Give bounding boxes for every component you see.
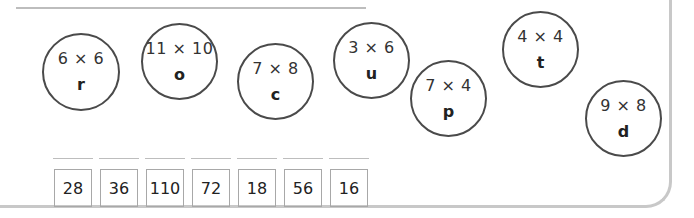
problem-circle-o: 11 × 10 o — [141, 23, 218, 100]
answer-slot: 36 — [99, 158, 139, 207]
answer-blank[interactable] — [53, 158, 93, 159]
answer-box: 28 — [54, 169, 92, 207]
problem-expression: 9 × 8 — [600, 96, 646, 116]
answer-box: 18 — [238, 169, 276, 207]
problem-circle-r: 6 × 6 r — [42, 33, 120, 111]
answer-slot: 72 — [191, 158, 231, 207]
answer-blank[interactable] — [99, 158, 139, 159]
problem-expression: 7 × 8 — [252, 59, 298, 79]
problem-letter: t — [537, 53, 545, 73]
problem-circle-c: 7 × 8 c — [237, 43, 314, 120]
problem-circle-p: 7 × 4 p — [410, 60, 487, 137]
problem-expression: 6 × 6 — [58, 49, 104, 69]
answer-blank[interactable] — [145, 158, 185, 159]
answer-box: 16 — [330, 169, 368, 207]
top-divider — [16, 7, 366, 9]
answer-blank[interactable] — [237, 158, 277, 159]
answer-box: 110 — [146, 169, 184, 207]
answer-box: 36 — [100, 169, 138, 207]
answer-blank[interactable] — [329, 158, 369, 159]
answer-slot: 110 — [145, 158, 185, 207]
problem-expression: 3 × 6 — [348, 38, 394, 58]
answer-slot: 16 — [329, 158, 369, 207]
problem-letter: d — [618, 122, 629, 142]
answer-slot: 28 — [53, 158, 93, 207]
problem-letter: r — [77, 75, 85, 95]
problem-circle-d: 9 × 8 d — [585, 80, 662, 157]
problem-circle-t: 4 × 4 t — [502, 11, 579, 88]
answer-row: 28 36 110 72 18 56 16 — [53, 158, 369, 207]
problem-expression: 7 × 4 — [425, 76, 471, 96]
answer-slot: 18 — [237, 158, 277, 207]
problem-expression: 11 × 10 — [146, 39, 214, 59]
problem-circle-u: 3 × 6 u — [333, 22, 410, 99]
problem-expression: 4 × 4 — [517, 27, 563, 47]
problem-letter: o — [174, 65, 185, 85]
problem-letter: p — [443, 102, 454, 122]
answer-blank[interactable] — [191, 158, 231, 159]
answer-box: 56 — [284, 169, 322, 207]
problem-letter: c — [271, 85, 280, 105]
problem-letter: u — [366, 64, 377, 84]
answer-box: 72 — [192, 169, 230, 207]
answer-blank[interactable] — [283, 158, 323, 159]
answer-slot: 56 — [283, 158, 323, 207]
